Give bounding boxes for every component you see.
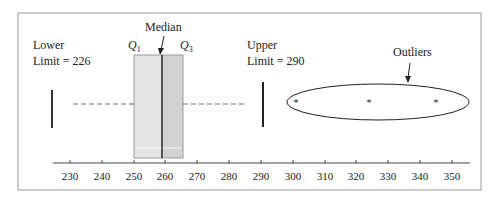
lower-limit-label-line1: Lower bbox=[33, 38, 64, 52]
lower-limit-label-line2: Limit = 226 bbox=[33, 54, 90, 68]
median-label: Median bbox=[145, 20, 182, 34]
outlier-point: * bbox=[294, 97, 299, 108]
tick-label: 270 bbox=[189, 170, 206, 182]
tick-label: 330 bbox=[380, 170, 397, 182]
outlier-point: * bbox=[434, 97, 439, 108]
box-lower-half bbox=[134, 55, 162, 158]
upper-limit-label-line1: Upper bbox=[247, 38, 277, 52]
tick-label: 300 bbox=[285, 170, 302, 182]
tick-label: 350 bbox=[444, 170, 461, 182]
tick-label: 310 bbox=[317, 170, 334, 182]
box-plot-diagram: Lower Limit = 226 Upper Limit = 290 Medi… bbox=[0, 0, 498, 202]
outlier-point: * bbox=[367, 97, 372, 108]
tick-label: 290 bbox=[253, 170, 270, 182]
tick-label: 340 bbox=[412, 170, 429, 182]
upper-limit-label-line2: Limit = 290 bbox=[247, 54, 304, 68]
tick-label: 230 bbox=[62, 170, 79, 182]
tick-label: 250 bbox=[126, 170, 143, 182]
tick-label: 260 bbox=[157, 170, 174, 182]
tick-label: 320 bbox=[348, 170, 365, 182]
outliers-label: Outliers bbox=[393, 45, 432, 59]
tick-label: 280 bbox=[221, 170, 238, 182]
tick-label: 240 bbox=[94, 170, 111, 182]
box-upper-half bbox=[162, 55, 183, 158]
